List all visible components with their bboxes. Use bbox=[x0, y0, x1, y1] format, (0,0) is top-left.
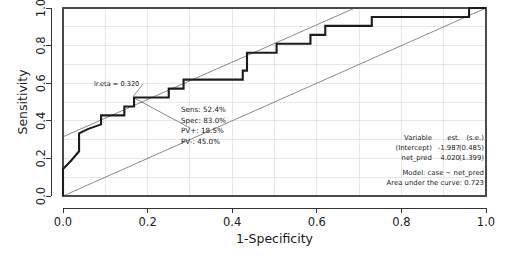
stat-line: PV-: 45.0% bbox=[181, 137, 220, 146]
roc-chart-svg: 0.00.20.40.60.81.0 0.00.20.40.60.81.0 1-… bbox=[0, 0, 508, 257]
y-tick-label: 0.0 bbox=[34, 187, 48, 205]
legend-header-cell: Variable bbox=[404, 134, 432, 142]
x-tick-label: 0.0 bbox=[54, 215, 72, 229]
legend-cell: net_pred bbox=[402, 154, 432, 162]
x-tick-label: 1.0 bbox=[477, 215, 495, 229]
legend-header-cell: (s.e.) bbox=[466, 134, 484, 142]
x-tick-label: 0.8 bbox=[392, 215, 410, 229]
stat-line: Sens: 52.4% bbox=[181, 105, 226, 114]
y-tick-label: 0.2 bbox=[34, 149, 48, 167]
y-tick-label: 0.8 bbox=[34, 36, 48, 54]
legend-model-line: Model: case ~ net_pred bbox=[402, 169, 484, 177]
legend-auc-line: Area under the curve: 0.723 bbox=[387, 179, 484, 187]
legend-cell: -1.987 bbox=[438, 144, 460, 152]
x-axis-title: 1-Specificity bbox=[236, 231, 313, 246]
stat-line: PV+: 18.5% bbox=[181, 126, 224, 135]
x-tick-label: 0.6 bbox=[308, 215, 326, 229]
legend-cell: (1.399) bbox=[459, 154, 484, 162]
roc-plot-container: 0.00.20.40.60.81.0 0.00.20.40.60.81.0 1-… bbox=[0, 0, 508, 257]
eta-label: lr.eta = 0.320 bbox=[94, 80, 139, 88]
legend-header-cell: est. bbox=[447, 134, 460, 142]
stat-line: Spec: 83.0% bbox=[181, 116, 226, 125]
legend-cell: (0.485) bbox=[459, 144, 484, 152]
y-tick-label: 1.0 bbox=[34, 0, 48, 17]
legend-cell: 4.020 bbox=[440, 154, 460, 162]
x-tick-label: 0.2 bbox=[138, 215, 156, 229]
chart-background bbox=[0, 0, 508, 257]
y-tick-label: 0.4 bbox=[34, 112, 48, 130]
y-tick-label: 0.6 bbox=[34, 74, 48, 92]
legend-cell: (Intercept) bbox=[395, 144, 432, 152]
y-axis-title: Sensitivity bbox=[15, 69, 30, 135]
x-tick-label: 0.4 bbox=[223, 215, 241, 229]
